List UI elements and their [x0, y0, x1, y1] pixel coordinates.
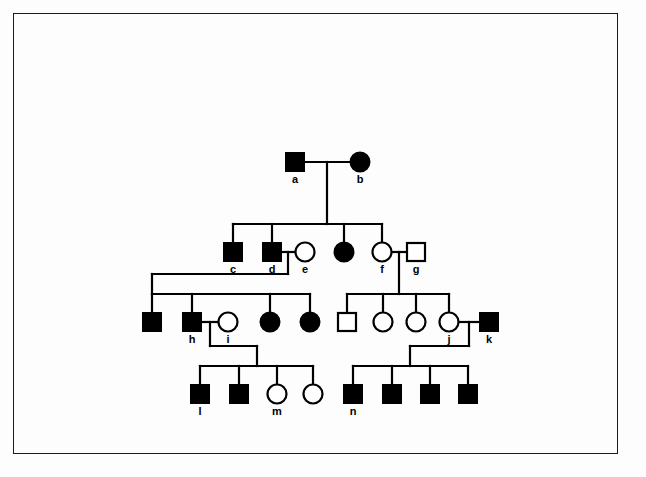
individual-k-square-filled [480, 313, 498, 331]
individual-iv-2-square-filled [230, 385, 248, 403]
individual-f-circle-open [373, 243, 392, 262]
individual-iv-8-square-filled [459, 385, 477, 403]
individual-iii-7-circle-open [374, 313, 393, 332]
individual-ii-4-circle-filled [335, 243, 354, 262]
label-i: i [218, 334, 238, 345]
individual-j-circle-open [440, 313, 459, 332]
individual-e-circle-open [296, 243, 315, 262]
label-c: c [223, 264, 243, 275]
label-a: a [285, 174, 305, 185]
individual-iv-7-square-filled [421, 385, 439, 403]
label-b: b [350, 174, 370, 185]
label-h: h [182, 334, 202, 345]
pedigree-diagram [0, 0, 646, 477]
label-l: l [190, 406, 210, 417]
label-j: j [439, 334, 459, 345]
individual-iv-6-square-filled [383, 385, 401, 403]
individual-g-square-open [407, 243, 425, 261]
individual-b-circle-filled [351, 153, 370, 172]
label-m: m [267, 406, 287, 417]
individual-l-square-filled [191, 385, 209, 403]
individual-i-circle-open [219, 313, 238, 332]
individual-c-square-filled [224, 243, 242, 261]
individual-m-circle-open [268, 385, 287, 404]
label-k: k [479, 334, 499, 345]
label-f: f [372, 264, 392, 275]
individual-d-square-filled [263, 243, 281, 261]
pedigree-figure: a b c d e f g h i j k l m n Pedigree cha… [0, 0, 646, 477]
individual-iii-5-circle-filled [301, 313, 320, 332]
individual-iii-6-square-open [338, 313, 356, 331]
individual-iii-4-circle-filled [261, 313, 280, 332]
label-g: g [406, 264, 426, 275]
individual-n-square-filled [344, 385, 362, 403]
label-d: d [262, 264, 282, 275]
individual-iii-8-circle-open [407, 313, 426, 332]
individual-iv-4-circle-open [304, 385, 323, 404]
individual-a-square-filled [286, 153, 304, 171]
label-n: n [343, 406, 363, 417]
individual-h-square-filled [183, 313, 201, 331]
connector-lines [152, 162, 480, 385]
label-e: e [295, 264, 315, 275]
individual-iii-1-square-filled [143, 313, 161, 331]
